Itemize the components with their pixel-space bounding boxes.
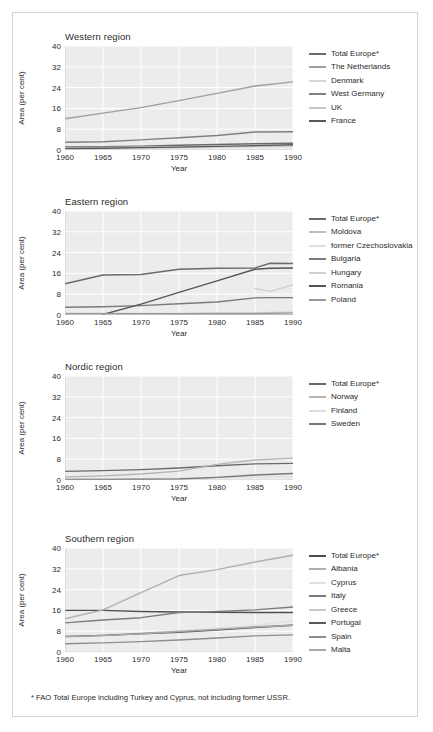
panel-title: Nordic region	[65, 361, 123, 372]
gridlines	[65, 46, 293, 150]
legend-label: Total Europe*	[331, 380, 379, 388]
plot-canvas	[65, 211, 293, 315]
legend-item[interactable]: Portugal	[309, 617, 421, 631]
legend-item[interactable]: Malta	[309, 644, 421, 658]
x-tick-label: 1975	[170, 318, 188, 327]
legend-item[interactable]: France	[309, 115, 421, 129]
x-tick-label: 1970	[132, 153, 150, 162]
x-tick-label: 1970	[132, 655, 150, 664]
x-tick-label: 1975	[170, 655, 188, 664]
legend-line-swatch-icon	[309, 595, 326, 597]
y-tick-label: 40	[52, 42, 61, 51]
gridlines	[65, 211, 293, 315]
legend-line-swatch-icon	[309, 410, 326, 412]
figure-footnote: * FAO Total Europe including Turkey and …	[31, 693, 290, 702]
chart-legend: Total Europe*Moldovaformer Czechoslovaki…	[309, 212, 421, 307]
legend-label: Spain	[331, 633, 351, 641]
legend-item[interactable]: Cyprus	[309, 576, 421, 590]
x-tick-label: 1985	[246, 153, 264, 162]
x-axis-label: Year	[171, 329, 187, 338]
legend-item[interactable]: The Netherlands	[309, 61, 421, 75]
x-tick-label: 1965	[94, 483, 112, 492]
legend-item[interactable]: Total Europe*	[309, 47, 421, 61]
legend-item[interactable]: Hungary	[309, 266, 421, 280]
legend-label: West Germany	[331, 90, 384, 98]
legend-item[interactable]: West Germany	[309, 88, 421, 102]
legend-item[interactable]: Greece	[309, 603, 421, 617]
legend-line-swatch-icon	[309, 285, 326, 287]
x-tick-label: 1975	[170, 153, 188, 162]
plot-canvas	[65, 376, 293, 480]
x-tick-label: 1990	[284, 655, 302, 664]
legend-line-swatch-icon	[309, 272, 326, 274]
figure-frame: Western regionArea (per cent)Year0816243…	[12, 12, 418, 717]
y-tick-label: 40	[52, 207, 61, 216]
plot-canvas	[65, 548, 293, 652]
x-axis-label: Year	[171, 666, 187, 675]
legend-label: France	[331, 117, 356, 125]
legend-item[interactable]: Albania	[309, 563, 421, 577]
legend-label: Moldova	[331, 228, 361, 236]
legend-item[interactable]: Finland	[309, 404, 421, 418]
y-axis-label: Area (per cent)	[17, 376, 26, 480]
plot-canvas	[65, 46, 293, 150]
legend-item[interactable]: Italy	[309, 590, 421, 604]
x-tick-label: 1965	[94, 318, 112, 327]
y-tick-label: 16	[52, 606, 61, 615]
x-tick-label: 1970	[132, 483, 150, 492]
legend-line-swatch-icon	[309, 120, 326, 122]
legend-line-swatch-icon	[309, 53, 326, 55]
legend-line-swatch-icon	[309, 423, 326, 425]
legend-line-swatch-icon	[309, 649, 326, 651]
y-tick-label: 24	[52, 248, 61, 257]
legend-item[interactable]: Spain	[309, 630, 421, 644]
x-tick-label: 1985	[246, 655, 264, 664]
legend-label: former Czechoslovakia	[331, 242, 412, 250]
legend-item[interactable]: Poland	[309, 293, 421, 307]
legend-label: The Netherlands	[331, 63, 390, 71]
legend-label: Bulgaria	[331, 255, 360, 263]
legend-item[interactable]: former Czechoslovakia	[309, 239, 421, 253]
legend-item[interactable]: Total Europe*	[309, 212, 421, 226]
legend-line-swatch-icon	[309, 609, 326, 611]
x-tick-label: 1985	[246, 483, 264, 492]
legend-line-swatch-icon	[309, 218, 326, 220]
legend-item[interactable]: Denmark	[309, 74, 421, 88]
legend-item[interactable]: Romania	[309, 280, 421, 294]
y-axis-label: Area (per cent)	[17, 46, 26, 150]
legend-line-swatch-icon	[309, 66, 326, 68]
y-tick-label: 32	[52, 392, 61, 401]
x-axis-label: Year	[171, 164, 187, 173]
legend-line-swatch-icon	[309, 231, 326, 233]
legend-label: Hungary	[331, 269, 361, 277]
legend-line-swatch-icon	[309, 636, 326, 638]
series-line	[65, 313, 293, 314]
legend-item[interactable]: Norway	[309, 391, 421, 405]
legend-line-swatch-icon	[309, 80, 326, 82]
x-tick-label: 1960	[56, 318, 74, 327]
legend-line-swatch-icon	[309, 299, 326, 301]
x-tick-label: 1965	[94, 153, 112, 162]
legend-label: Total Europe*	[331, 552, 379, 560]
x-tick-label: 1990	[284, 483, 302, 492]
plot-area: Area (per cent)Year081624324019601965197…	[65, 46, 293, 150]
legend-line-swatch-icon	[309, 568, 326, 570]
x-tick-label: 1975	[170, 483, 188, 492]
legend-label: Denmark	[331, 77, 363, 85]
legend-item[interactable]: UK	[309, 101, 421, 115]
legend-line-swatch-icon	[309, 396, 326, 398]
panel-title: Western region	[65, 31, 131, 42]
legend-item[interactable]: Total Europe*	[309, 549, 421, 563]
legend-item[interactable]: Total Europe*	[309, 377, 421, 391]
legend-label: Norway	[331, 393, 358, 401]
legend-label: Cyprus	[331, 579, 356, 587]
y-tick-label: 24	[52, 413, 61, 422]
legend-line-swatch-icon	[309, 258, 326, 260]
x-tick-label: 1980	[208, 655, 226, 664]
y-tick-label: 16	[52, 269, 61, 278]
x-tick-label: 1960	[56, 483, 74, 492]
legend-item[interactable]: Sweden	[309, 418, 421, 432]
legend-item[interactable]: Moldova	[309, 226, 421, 240]
legend-line-swatch-icon	[309, 582, 326, 584]
legend-item[interactable]: Bulgaria	[309, 253, 421, 267]
